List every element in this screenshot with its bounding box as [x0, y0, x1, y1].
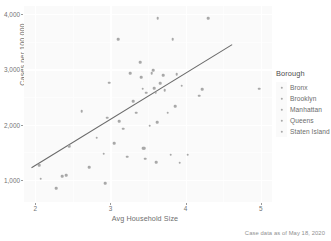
data-point [126, 155, 129, 158]
data-point [181, 84, 184, 87]
legend-item-label: Queens [290, 117, 314, 124]
data-point [135, 112, 138, 115]
data-point [117, 38, 120, 41]
x-tick-label: 2 [23, 205, 47, 212]
legend-item-label: Manhattan [290, 106, 322, 113]
data-point [122, 128, 125, 131]
legend-point-icon [276, 126, 287, 137]
data-point [55, 187, 58, 190]
data-point [201, 88, 204, 91]
trend-line [24, 6, 272, 202]
legend-point-icon [276, 104, 287, 115]
legend-point-icon [276, 115, 287, 126]
data-point [174, 105, 177, 108]
data-point [144, 157, 147, 160]
data-point [108, 81, 111, 84]
scatter-chart: Cases per 100,000 1,0002,0003,0004,00023… [0, 0, 331, 241]
legend-item-label: Bronx [290, 84, 308, 91]
x-axis-title: Avg Household Size [20, 214, 270, 223]
x-tick-label: 4 [174, 205, 198, 212]
data-point [207, 17, 210, 20]
chart-caption: Case data as of May 18, 2020 [245, 230, 325, 236]
data-point [148, 124, 151, 127]
data-point [145, 91, 148, 94]
data-point [153, 87, 156, 90]
legend-title: Borough [276, 69, 331, 78]
data-point [139, 61, 142, 64]
data-point [96, 136, 99, 139]
legend-point-icon [276, 93, 287, 104]
data-point [156, 17, 159, 20]
legend-item-label: Brooklyn [290, 95, 316, 102]
plot-panel [24, 6, 272, 202]
data-point [140, 76, 143, 79]
data-point [61, 175, 64, 178]
data-point [81, 110, 84, 113]
y-tick-label: 1,000 [0, 176, 20, 183]
x-tick-label: 5 [249, 205, 273, 212]
x-tick-label: 3 [98, 205, 122, 212]
data-point [152, 69, 155, 72]
y-tick-label: 2,000 [0, 121, 20, 128]
y-tick-mark [21, 125, 23, 126]
data-point [198, 94, 201, 97]
data-point [141, 87, 144, 90]
data-point [162, 74, 165, 77]
data-point [166, 112, 169, 115]
legend-item[interactable]: Staten Island [276, 126, 331, 137]
data-point [187, 153, 190, 156]
data-point [178, 162, 181, 165]
data-point [156, 121, 159, 124]
legend-item[interactable]: Brooklyn [276, 93, 331, 104]
data-point [132, 100, 135, 103]
data-point [155, 161, 158, 164]
data-point [104, 182, 107, 185]
y-tick-label: 3,000 [0, 66, 20, 73]
data-point [102, 152, 105, 155]
data-point [129, 72, 132, 75]
legend: Borough BronxBrooklynManhattanQueensStat… [276, 69, 331, 137]
y-tick-mark [21, 69, 23, 70]
legend-point-icon [276, 82, 287, 93]
data-point [258, 87, 261, 90]
data-point [159, 82, 162, 85]
data-point [106, 117, 109, 120]
data-point [154, 91, 157, 94]
data-point [113, 142, 116, 145]
data-point [118, 120, 121, 123]
data-point [163, 89, 166, 92]
y-tick-mark [21, 180, 23, 181]
y-tick-label: 4,000 [0, 11, 20, 18]
legend-items: BronxBrooklynManhattanQueensStaten Islan… [276, 82, 331, 137]
data-point [175, 73, 178, 76]
data-point [68, 145, 71, 148]
y-tick-mark [21, 14, 23, 15]
legend-item[interactable]: Manhattan [276, 104, 331, 115]
data-point [150, 72, 153, 75]
data-point [38, 164, 41, 167]
data-point [88, 166, 91, 169]
legend-item[interactable]: Bronx [276, 82, 331, 93]
data-point [172, 38, 175, 41]
legend-item[interactable]: Queens [276, 115, 331, 126]
data-point [39, 177, 42, 180]
data-point [65, 174, 68, 177]
data-point [169, 153, 172, 156]
data-point [143, 147, 146, 150]
legend-item-label: Staten Island [290, 128, 330, 135]
